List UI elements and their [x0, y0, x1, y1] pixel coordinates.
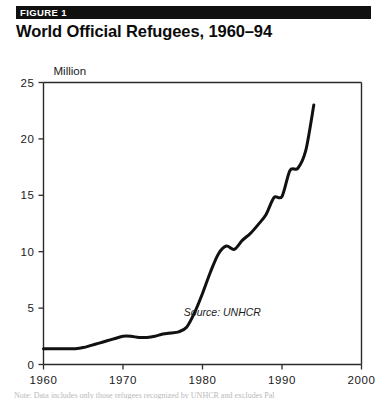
axis-frame: [44, 83, 362, 365]
refugees-line-chart: 0510152025 19601970198019902000 Million …: [0, 56, 386, 386]
x-axis-tick-label: 1980: [189, 374, 217, 386]
x-axis-tick-label: 1990: [268, 374, 296, 386]
y-axis-tick-label: 10: [21, 246, 35, 258]
figure-header: FIGURE 1 World Official Refugees, 1960–9…: [16, 6, 371, 41]
figure-title: World Official Refugees, 1960–94: [16, 22, 371, 41]
source-annotation: Source: UNHCR: [184, 306, 261, 318]
x-axis-tick-label: 1960: [30, 374, 58, 386]
y-axis-tick-label: 15: [21, 189, 35, 201]
x-axis-tick-group: 19601970198019902000: [30, 365, 376, 386]
y-axis-tick-label: 5: [28, 302, 35, 314]
chart-plot-area: 0510152025 19601970198019902000 Million …: [0, 56, 386, 386]
figure-root: FIGURE 1 World Official Refugees, 1960–9…: [0, 0, 386, 399]
y-axis-tick-label: 20: [21, 133, 35, 145]
x-axis-tick-label: 2000: [348, 374, 376, 386]
y-axis-tick-label: 25: [21, 77, 35, 89]
series-line-world-official-refugees: [44, 105, 314, 349]
figure-number-banner: FIGURE 1: [16, 6, 371, 19]
y-axis-tick-label: 0: [28, 359, 35, 371]
y-axis-unit-label: Million: [54, 65, 87, 77]
y-axis-tick-group: 0510152025: [21, 77, 44, 371]
figure-number-label: FIGURE 1: [20, 7, 67, 18]
x-axis-tick-label: 1970: [109, 374, 137, 386]
figure-caption-cutoff: Note: Data includes only those refugees …: [14, 391, 380, 399]
